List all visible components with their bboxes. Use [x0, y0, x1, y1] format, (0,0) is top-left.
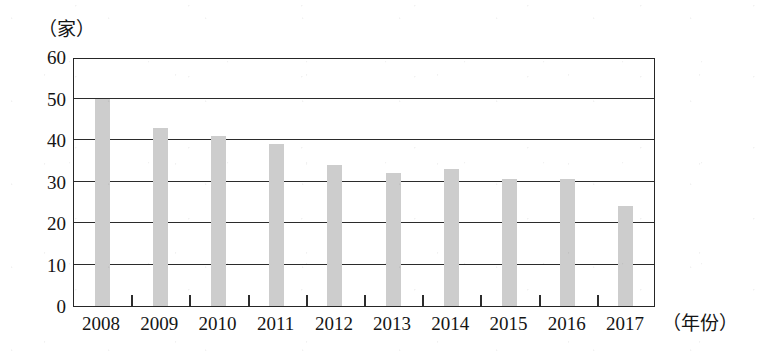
bar-2015 — [502, 179, 517, 306]
axis-tick-6 — [480, 295, 482, 306]
y-tick-label-50: 50 — [22, 90, 66, 109]
x-tick-label-2017: 2017 — [590, 313, 660, 335]
plot-area — [73, 58, 655, 307]
axis-tick-8 — [597, 295, 599, 306]
axis-tick-1 — [189, 295, 191, 306]
bar-2017 — [618, 206, 633, 306]
axis-tick-4 — [364, 295, 366, 306]
y-tick-label-30: 30 — [22, 173, 66, 192]
axis-tick-2 — [248, 295, 250, 306]
y-tick-label-60: 60 — [22, 48, 66, 67]
bar-2009 — [153, 128, 168, 306]
y-tick-label-10: 10 — [22, 256, 66, 275]
axis-tick-7 — [539, 295, 541, 306]
bar-2011 — [269, 144, 284, 306]
bar-2008 — [95, 99, 110, 307]
bar-2016 — [560, 179, 575, 306]
y-tick-label-20: 20 — [22, 214, 66, 233]
gridline-50 — [74, 98, 654, 99]
y-axis-tick-labels: 0102030405060 — [18, 0, 66, 358]
bar-2013 — [386, 173, 401, 306]
x-axis-tick-labels: 2008200920102011201220132014201520162017 — [0, 313, 759, 343]
y-tick-label-40: 40 — [22, 131, 66, 150]
bar-2012 — [327, 165, 342, 306]
bar-2010 — [211, 136, 226, 306]
bar-2014 — [444, 169, 459, 306]
bar-chart-figure: （家） 0102030405060 2008200920102011201220… — [0, 0, 759, 358]
x-axis-unit-label: （年份） — [662, 313, 738, 335]
axis-tick-3 — [306, 295, 308, 306]
axis-tick-0 — [131, 295, 133, 306]
axis-tick-5 — [422, 295, 424, 306]
